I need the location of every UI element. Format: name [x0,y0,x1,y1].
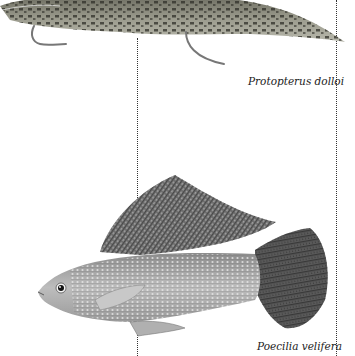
figure-caption-molly: Poecilia velifera [257,340,342,352]
figure-caption-lungfish: Protopterus dolloi [248,75,344,87]
sailfin-molly-illustration [38,175,328,336]
illustrations [0,0,355,356]
spotted-lungfish-illustration [0,0,345,64]
